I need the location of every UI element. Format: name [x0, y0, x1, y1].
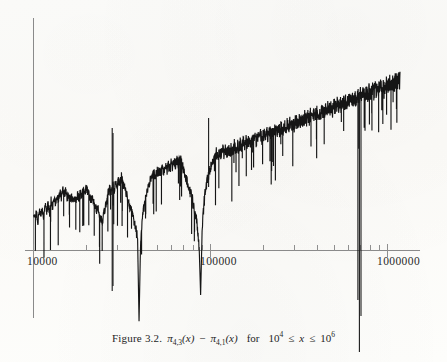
- caption-range-low: 104: [268, 332, 283, 344]
- caption-var: x: [299, 332, 304, 344]
- x-tick-label-1000000: 1000000: [377, 255, 420, 267]
- x-tick-label-100000: 100000: [200, 255, 237, 267]
- caption-range-high: 106: [320, 332, 335, 344]
- caption-pi-a: π4,3(x): [167, 332, 194, 344]
- caption-for-word: for: [247, 332, 260, 344]
- figure-page: 10000 100000 1000000 Figure 3.2.π4,3(x)−…: [0, 0, 447, 362]
- caption-pi-b: π4,1(x): [211, 332, 238, 344]
- figure-caption: Figure 3.2.π4,3(x)−π4,1(x)for104≤x≤106: [0, 330, 447, 347]
- caption-le-1: ≤: [288, 332, 294, 344]
- x-tick-label-10000: 10000: [27, 255, 58, 267]
- figure-number: Figure 3.2.: [112, 332, 162, 344]
- caption-le-2: ≤: [309, 332, 315, 344]
- caption-minus: −: [199, 332, 205, 344]
- data-curve-pi43-minus-pi41: [34, 72, 401, 322]
- plot-canvas: [0, 0, 447, 362]
